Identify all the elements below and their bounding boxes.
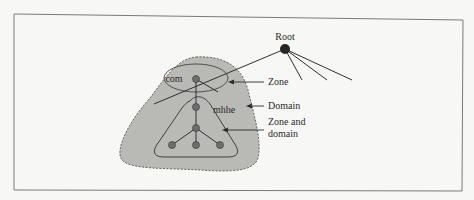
mid-node: [193, 125, 200, 132]
zone-annotation-label: Zone: [268, 76, 289, 87]
edge-root-3: [285, 49, 352, 80]
com-node: [193, 76, 200, 83]
dns-diagram-svg: Root com mhhe Zone Domain Zone and domai…: [0, 0, 474, 200]
root-label: Root: [275, 31, 295, 42]
mhhe-label: mhhe: [213, 104, 236, 115]
edge-root-2: [285, 49, 327, 80]
domain-region: [120, 57, 259, 171]
leaf-node-right: [217, 142, 224, 149]
diagram-canvas: Root com mhhe Zone Domain Zone and domai…: [0, 0, 474, 200]
mhhe-node: [193, 104, 200, 111]
leaf-node-left: [169, 142, 176, 149]
root-node: [280, 44, 290, 54]
domain-annotation-label: Domain: [268, 100, 300, 111]
zone-and-domain-annotation-line2: domain: [268, 128, 298, 139]
com-label: com: [165, 73, 182, 84]
zone-and-domain-annotation-line1: Zone and: [268, 116, 306, 127]
leaf-node-center: [193, 142, 200, 149]
